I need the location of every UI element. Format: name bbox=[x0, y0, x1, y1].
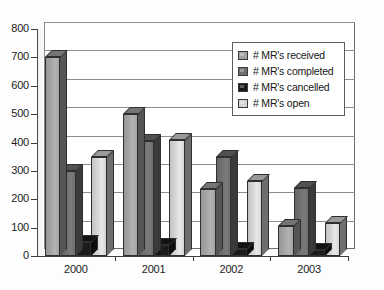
x-tick-mark-2002 bbox=[270, 256, 271, 261]
y-tick-label-600: 600 bbox=[0, 80, 29, 91]
y-tick-label-200: 200 bbox=[0, 193, 29, 204]
legend-swatch-completed bbox=[238, 67, 248, 76]
legend-item-completed: # MR's completed bbox=[238, 63, 340, 79]
legend-label-received: # MR's received bbox=[253, 50, 325, 61]
legend: # MR's received # MR's completed # MR's … bbox=[232, 42, 345, 116]
y-tick-label-300: 300 bbox=[0, 165, 29, 176]
legend-swatch-open bbox=[238, 99, 248, 108]
bar-2000-series-0 bbox=[45, 57, 61, 256]
gridline-400 bbox=[44, 136, 355, 137]
legend-label-cancelled: # MR's cancelled bbox=[253, 82, 329, 93]
plot-area-side-wall bbox=[37, 29, 44, 256]
bar-2002-series-0 bbox=[200, 189, 216, 256]
y-tick-label-700: 700 bbox=[0, 51, 29, 62]
x-tick-label-2003: 2003 bbox=[279, 263, 339, 275]
legend-swatch-received bbox=[238, 51, 248, 60]
legend-label-open: # MR's open bbox=[253, 98, 309, 109]
y-tick-label-400: 400 bbox=[0, 137, 29, 148]
x-tick-mark-2003 bbox=[348, 256, 349, 261]
y-tick-label-500: 500 bbox=[0, 108, 29, 119]
bar-chart: 0100200300400500600700800 20002001200220… bbox=[0, 0, 384, 290]
y-tick-label-100: 100 bbox=[0, 222, 29, 233]
x-tick-label-2002: 2002 bbox=[201, 263, 261, 275]
y-tick-label-0: 0 bbox=[0, 250, 29, 261]
legend-label-completed: # MR's completed bbox=[253, 66, 334, 77]
x-tick-mark-2000 bbox=[115, 256, 116, 261]
legend-item-open: # MR's open bbox=[238, 95, 340, 111]
bar-2003-series-0 bbox=[278, 226, 294, 256]
x-tick-label-2000: 2000 bbox=[46, 263, 106, 275]
x-tick-mark-2001 bbox=[193, 256, 194, 261]
y-tick-label-800: 800 bbox=[0, 23, 29, 34]
y-axis-line bbox=[37, 29, 38, 257]
legend-item-received: # MR's received bbox=[238, 47, 340, 63]
x-tick-label-2001: 2001 bbox=[124, 263, 184, 275]
legend-swatch-cancelled bbox=[238, 83, 248, 92]
gridline-800 bbox=[44, 22, 355, 23]
legend-item-cancelled: # MR's cancelled bbox=[238, 79, 340, 95]
bar-2001-series-0 bbox=[123, 114, 139, 256]
